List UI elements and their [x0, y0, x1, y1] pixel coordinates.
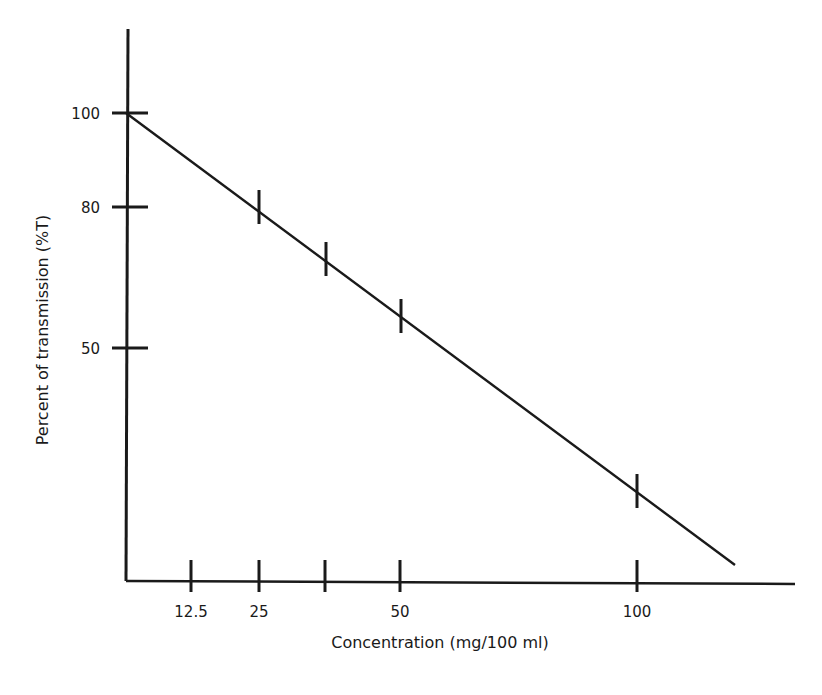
- x-ticks: 12.52550100: [174, 560, 651, 621]
- x-tick: 12.5: [174, 560, 207, 621]
- x-tick: 50: [390, 560, 409, 621]
- chart: 1008050 12.52550100 Percent of transmiss…: [0, 0, 822, 695]
- x-axis: [126, 581, 795, 584]
- y-tick-label: 80: [81, 199, 100, 217]
- y-tick-label: 100: [71, 105, 100, 123]
- y-tick-label: 50: [81, 340, 100, 358]
- x-tick-label: 50: [390, 603, 409, 621]
- x-tick-label: 12.5: [174, 603, 207, 621]
- y-tick: 80: [81, 199, 148, 217]
- trend-line: [126, 113, 735, 565]
- x-tick-label: 100: [623, 603, 652, 621]
- y-ticks: 1008050: [71, 105, 148, 358]
- x-axis-title: Concentration (mg/100 ml): [331, 633, 549, 652]
- x-tick: 100: [623, 560, 652, 621]
- y-tick: 50: [81, 340, 148, 358]
- x-tick: 25: [249, 560, 268, 621]
- x-tick-label: 25: [249, 603, 268, 621]
- y-axis-title: Percent of transmission (%T): [33, 215, 52, 446]
- data-series: [126, 113, 735, 565]
